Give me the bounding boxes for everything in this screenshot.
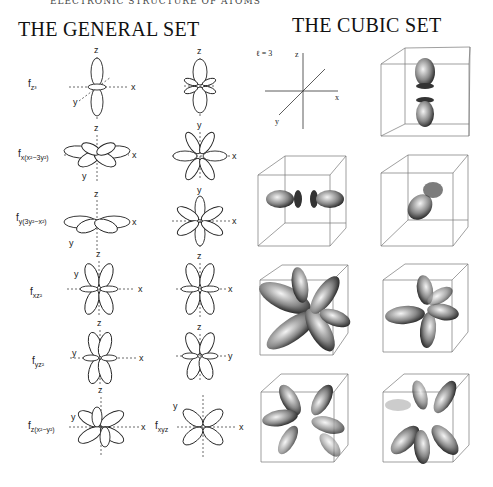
svg-text:z: z [295, 50, 299, 59]
cubic-panel-7 [383, 374, 469, 465]
svg-text:y: y [275, 117, 279, 126]
cubic-axis-legend: z x y [0, 0, 493, 487]
cubic-panel-4 [255, 265, 353, 356]
cubic-panel-5 [383, 264, 468, 352]
cubic-panel-3 [381, 155, 468, 246]
cubic-panel-6 [261, 374, 348, 462]
svg-text:x: x [335, 93, 339, 102]
cubic-panel-2 [258, 156, 346, 246]
cubic-panel-1 [381, 47, 470, 136]
